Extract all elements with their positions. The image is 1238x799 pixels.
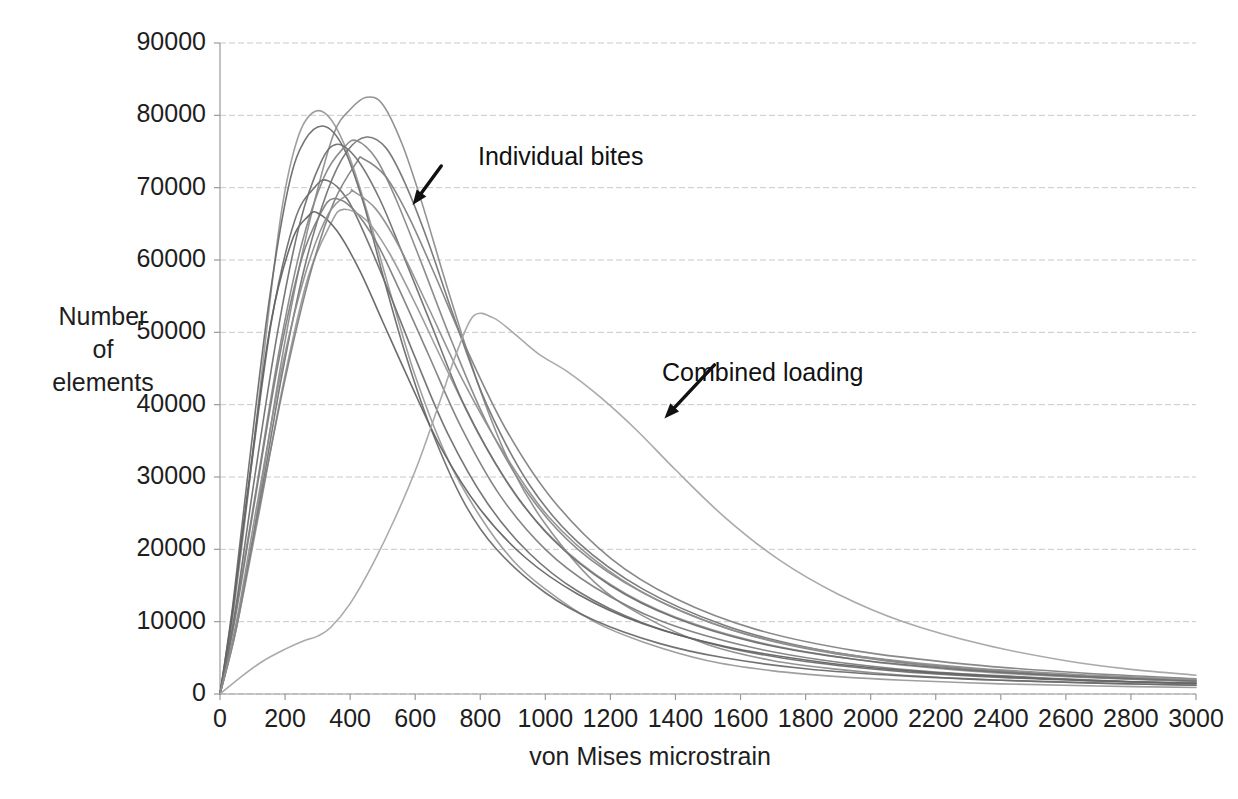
- annotation-individual-bites: Individual bites: [478, 142, 643, 171]
- x-axis-title: von Mises microstrain: [440, 742, 860, 771]
- y-tick-label: 50000: [40, 316, 206, 345]
- y-tick-label: 70000: [40, 172, 206, 201]
- data-curve-11: [220, 190, 1196, 694]
- data-curve-2: [220, 126, 1196, 694]
- chart-figure: Number of elements von Mises microstrain…: [0, 0, 1238, 799]
- x-tick-marks-group: [220, 694, 1196, 700]
- y-tick-label: 90000: [40, 27, 206, 56]
- y-tick-label: 20000: [40, 533, 206, 562]
- y-tick-label: 60000: [40, 244, 206, 273]
- y-tick-label: 80000: [40, 99, 206, 128]
- y-tick-label: 0: [40, 678, 206, 707]
- data-curve-1: [220, 97, 1196, 694]
- y-tick-label: 40000: [40, 389, 206, 418]
- annotation-combined-loading: Combined loading: [662, 358, 864, 387]
- data-curve-0: [220, 110, 1196, 694]
- data-curve-4: [220, 140, 1196, 694]
- y-tick-label: 30000: [40, 461, 206, 490]
- data-curve-5: [220, 180, 1196, 694]
- data-curves-group: [220, 97, 1196, 694]
- y-axis-title: Number of elements: [18, 300, 188, 399]
- x-tick-label: 3000: [1151, 704, 1238, 733]
- y-tick-label: 10000: [40, 606, 206, 635]
- annotation-arrow-0-shaft: [419, 166, 442, 197]
